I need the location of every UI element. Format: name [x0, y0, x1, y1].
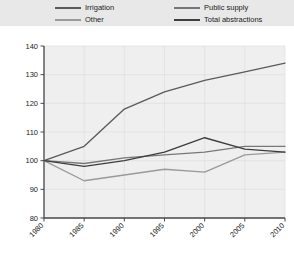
- x-tick-label: 1990: [108, 221, 126, 239]
- plot-area-wrapper: 8090100110120130140 19801985199019952000…: [0, 26, 294, 261]
- legend-entry-total-abstractions: Total abstractions: [174, 14, 262, 25]
- legend-swatch-total-abstractions: [174, 19, 200, 21]
- legend-column-left: Irrigation Other: [55, 2, 114, 26]
- legend-entry-irrigation: Irrigation: [55, 2, 114, 13]
- chart-legend: Irrigation Other Public supply Total abs…: [0, 0, 294, 26]
- y-tick-label: 90: [30, 185, 38, 194]
- legend-label-irrigation: Irrigation: [85, 2, 114, 13]
- legend-swatch-irrigation: [55, 7, 81, 9]
- chart-container: Irrigation Other Public supply Total abs…: [0, 0, 294, 261]
- x-tick-label: 2010: [268, 221, 286, 239]
- y-tick-label: 140: [25, 42, 38, 51]
- legend-label-total-abstractions: Total abstractions: [204, 14, 262, 25]
- x-tick-label: 1995: [148, 221, 166, 239]
- x-tick-label: 2005: [228, 221, 246, 239]
- y-tick-label: 130: [25, 70, 38, 79]
- legend-label-other: Other: [85, 14, 104, 25]
- legend-entry-public-supply: Public supply: [174, 2, 262, 13]
- legend-column-right: Public supply Total abstractions: [174, 2, 262, 26]
- legend-swatch-public-supply: [174, 7, 200, 9]
- line-chart-svg: 8090100110120130140 19801985199019952000…: [0, 26, 294, 261]
- legend-entry-other: Other: [55, 14, 114, 25]
- y-axis-tick-labels: 8090100110120130140: [25, 42, 38, 223]
- x-axis-tick-labels: 1980198519901995200020052010: [27, 221, 286, 239]
- legend-swatch-other: [55, 19, 81, 21]
- y-tick-label: 120: [25, 99, 38, 108]
- y-tick-label: 100: [25, 156, 38, 165]
- x-tick-label: 1980: [27, 221, 45, 239]
- y-tick-label: 80: [30, 214, 38, 223]
- y-tick-label: 110: [26, 128, 38, 137]
- x-tick-label: 1985: [67, 221, 85, 239]
- x-tick-label: 2000: [188, 221, 206, 239]
- legend-label-public-supply: Public supply: [204, 2, 248, 13]
